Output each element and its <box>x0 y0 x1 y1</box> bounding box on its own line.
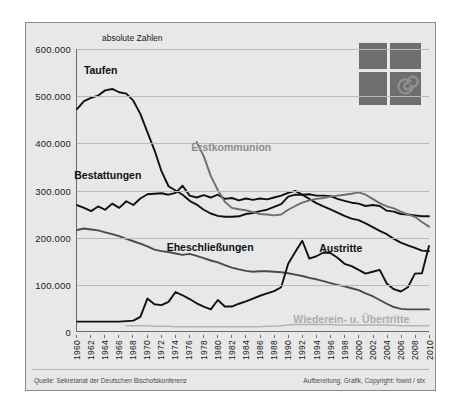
x-tick-label: 1976 <box>184 340 194 360</box>
x-tick-mark <box>231 335 232 338</box>
series-label-eheschlie-ungen: Eheschließungen <box>167 241 254 253</box>
x-tick-mark <box>415 335 416 338</box>
chart-panel: absolute Zahlen 600.000500.000400.000300… <box>25 22 436 391</box>
gridline <box>77 49 429 50</box>
gridline <box>77 238 429 239</box>
x-tick-mark <box>429 335 430 338</box>
gridline <box>77 285 429 286</box>
x-tick-mark <box>316 335 317 338</box>
series-label-austritte: Austritte <box>319 242 362 254</box>
x-tick-label: 1978 <box>199 340 209 360</box>
x-tick-mark <box>147 335 148 338</box>
x-tick-mark <box>358 335 359 338</box>
series-line-erstkommunion <box>197 142 429 227</box>
x-tick-mark <box>132 335 133 338</box>
x-tick-label: 2002 <box>368 340 378 360</box>
x-tick-mark <box>344 335 345 338</box>
x-tick-label: 1982 <box>227 340 237 360</box>
y-tick-label: 200.000 <box>35 232 71 243</box>
x-tick-label: 1992 <box>297 340 307 360</box>
x-tick-mark <box>104 335 105 338</box>
x-tick-mark <box>260 335 261 338</box>
x-tick-label: 1962 <box>86 340 96 360</box>
x-tick-label: 1974 <box>170 340 180 360</box>
x-tick-mark <box>161 335 162 338</box>
x-tick-mark <box>274 335 275 338</box>
x-tick-label: 1980 <box>213 340 223 360</box>
x-tick-label: 1972 <box>156 340 166 360</box>
y-tick-label: 600.000 <box>35 44 71 55</box>
x-tick-mark <box>401 335 402 338</box>
x-tick-label: 2004 <box>382 340 392 360</box>
x-tick-mark <box>76 335 77 338</box>
y-tick-label: 300.000 <box>35 185 71 196</box>
x-tick-label: 1998 <box>340 340 350 360</box>
axis-note: absolute Zahlen <box>102 33 163 43</box>
x-tick-mark <box>217 335 218 338</box>
y-axis-labels: 600.000500.000400.000300.000200.000100.0… <box>26 23 76 306</box>
y-tick-label: 0 <box>66 327 71 338</box>
x-tick-label: 1986 <box>255 340 265 360</box>
plot-area <box>76 49 429 332</box>
x-tick-mark <box>118 335 119 338</box>
x-tick-label: 1964 <box>100 340 110 360</box>
gridline <box>77 96 429 97</box>
x-tick-mark <box>302 335 303 338</box>
footer-divider <box>32 369 429 370</box>
series-label-bestattungen: Bestattungen <box>74 169 141 181</box>
series-line-austritte <box>77 241 429 322</box>
x-tick-label: 1988 <box>269 340 279 360</box>
gridline <box>77 191 429 192</box>
series-label-taufen: Taufen <box>84 64 118 76</box>
x-tick-label: 2000 <box>354 340 364 360</box>
series-label-erstkommunion: Erstkommunion <box>191 141 271 153</box>
y-tick-label: 100.000 <box>35 279 71 290</box>
x-tick-mark <box>387 335 388 338</box>
x-tick-label: 1996 <box>326 340 336 360</box>
x-tick-mark <box>288 335 289 338</box>
x-tick-mark <box>175 335 176 338</box>
x-tick-label: 2010 <box>425 340 435 360</box>
y-tick-label: 500.000 <box>35 91 71 102</box>
x-tick-label: 1984 <box>241 340 251 360</box>
chart-screenshot: absolute Zahlen 600.000500.000400.000300… <box>0 0 458 415</box>
x-tick-label: 1960 <box>72 340 82 360</box>
x-tick-label: 1968 <box>128 340 138 360</box>
x-tick-mark <box>203 335 204 338</box>
x-tick-label: 2006 <box>396 340 406 360</box>
y-tick-label: 400.000 <box>35 138 71 149</box>
x-tick-mark <box>330 335 331 338</box>
x-tick-mark <box>189 335 190 338</box>
x-tick-label: 1990 <box>283 340 293 360</box>
x-tick-label: 1966 <box>114 340 124 360</box>
x-tick-label: 2008 <box>410 340 420 360</box>
series-label-wiederein-u-bertritte: Wiederein- u. Übertritte <box>293 313 409 325</box>
x-tick-label: 1994 <box>312 340 322 360</box>
x-tick-mark <box>245 335 246 338</box>
x-tick-mark <box>90 335 91 338</box>
x-tick-mark <box>373 335 374 338</box>
x-tick-label: 1970 <box>142 340 152 360</box>
copyright-note: Aufbereitung, Grafik, Copyright: fowid /… <box>303 377 425 384</box>
source-note: Quelle: Sekretariat der Deutschen Bischo… <box>34 377 187 384</box>
